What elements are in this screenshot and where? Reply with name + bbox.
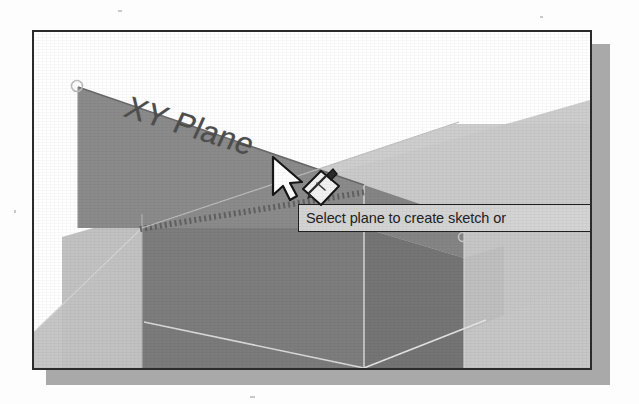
3d-viewport[interactable]: XY Plane Select plane to create sketch o…	[34, 32, 590, 368]
3d-scene-graphics	[34, 32, 590, 368]
scan-speckle	[14, 210, 16, 213]
scan-speckle	[250, 396, 255, 398]
plane-corner-handle-top-left[interactable]	[72, 81, 83, 92]
scan-speckle	[540, 16, 543, 18]
scan-speckle	[118, 10, 122, 12]
plane-left-strip[interactable]	[62, 214, 142, 368]
plane-selection-tooltip: Select plane to create sketch or	[298, 204, 590, 232]
scanned-page-background: XY Plane Select plane to create sketch o…	[0, 0, 639, 404]
cad-viewport-window: XY Plane Select plane to create sketch o…	[32, 30, 592, 370]
